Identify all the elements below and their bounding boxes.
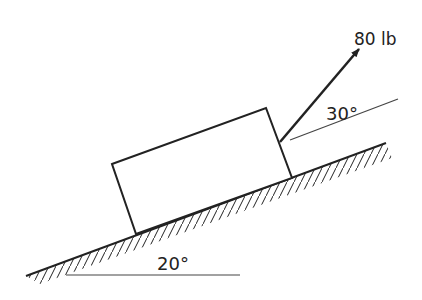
force-arrow	[280, 49, 359, 142]
force-angle-label: 30°	[326, 103, 358, 124]
incline-diagram: 80 lb 30° 20°	[0, 0, 422, 300]
force-label: 80 lb	[354, 29, 397, 49]
incline-angle-label: 20°	[157, 253, 189, 274]
